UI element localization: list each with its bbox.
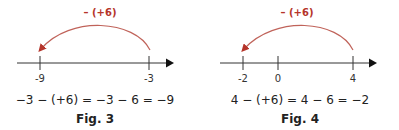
figure-caption: Fig. 3 <box>76 112 114 126</box>
tick-label: 4 <box>350 73 356 84</box>
operation-label: – (+6) <box>84 7 117 18</box>
equation: 4 − (+6) = 4 − 6 = −2 <box>231 93 369 107</box>
figure-caption: Fig. 4 <box>281 112 319 126</box>
jump-arc <box>41 25 150 50</box>
axis-arrow-icon <box>369 59 377 68</box>
figure-3: – (+6) -9 -3 −3 − (+6) = −3 − 6 = −9 Fig… <box>16 7 175 126</box>
tick-label: -2 <box>238 73 248 84</box>
tick-label: -9 <box>35 73 45 84</box>
operation-label: – (+6) <box>281 7 314 18</box>
tick-label: -3 <box>144 73 154 84</box>
number-line-diagrams: – (+6) -9 -3 −3 − (+6) = −3 − 6 = −9 Fig… <box>0 0 399 130</box>
tick-label: 0 <box>275 73 281 84</box>
jump-arc <box>244 25 353 50</box>
equation: −3 − (+6) = −3 − 6 = −9 <box>16 93 175 107</box>
figure-4: – (+6) -2 0 4 4 − (+6) = 4 − 6 = −2 Fig.… <box>220 7 377 126</box>
axis-arrow-icon <box>166 59 174 68</box>
